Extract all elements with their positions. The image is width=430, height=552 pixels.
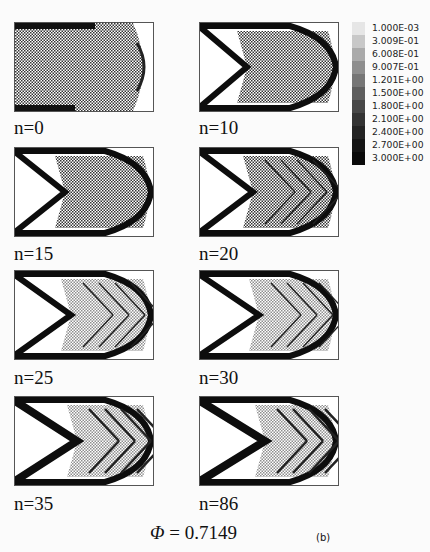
panel-label: n=0 [14, 117, 44, 139]
phi-symbol: Φ [150, 522, 164, 543]
topology-plot [200, 148, 338, 236]
topology-plot [200, 271, 338, 359]
panel-n0 [14, 22, 154, 112]
colorbar-tick: 2.100E+00 [372, 112, 424, 125]
panel-n86 [199, 396, 339, 486]
topology-plot [200, 397, 338, 485]
phi-value: Φ = 0.7149 [150, 522, 237, 544]
colorbar-tick: 3.009E-01 [372, 34, 424, 47]
topology-plot [15, 271, 153, 359]
colorbar-tick: 6.008E-01 [372, 47, 424, 60]
panel-label: n=15 [14, 243, 53, 265]
panel-label: n=30 [199, 367, 238, 389]
colorbar-tick: 1.800E+00 [372, 99, 424, 112]
colorbar-tick: 2.400E+00 [372, 125, 424, 138]
panel-label: n=25 [14, 367, 53, 389]
topology-plot [15, 23, 153, 111]
panel-n30 [199, 270, 339, 360]
colorbar [352, 22, 365, 165]
panel-n15 [14, 147, 154, 237]
colorbar-ticks: 1.000E-03 3.009E-01 6.008E-01 9.007E-01 … [372, 21, 424, 164]
topology-plot [200, 23, 338, 111]
phi-number: = 0.7149 [169, 522, 237, 543]
colorbar-tick: 1.500E+00 [372, 86, 424, 99]
colorbar-tick: 3.000E+00 [372, 151, 424, 164]
panel-label: n=35 [14, 493, 53, 515]
colorbar-tick: 1.201E+00 [372, 73, 424, 86]
topology-plot [15, 148, 153, 236]
topology-plot [15, 397, 153, 485]
panel-label: n=86 [199, 493, 238, 515]
panel-n25 [14, 270, 154, 360]
panel-n20 [199, 147, 339, 237]
colorbar-tick: 1.000E-03 [372, 21, 424, 34]
panel-n35 [14, 396, 154, 486]
colorbar-tick: 9.007E-01 [372, 60, 424, 73]
panel-n10 [199, 22, 339, 112]
subfigure-label: (b) [316, 532, 330, 543]
colorbar-tick: 2.700E+00 [372, 138, 424, 151]
panel-label: n=10 [199, 117, 238, 139]
panel-label: n=20 [199, 243, 238, 265]
